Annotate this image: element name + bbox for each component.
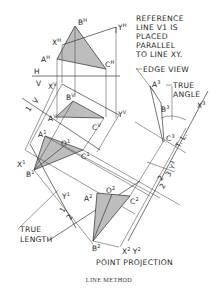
reference-note-line-5: TO LINE XY.	[135, 50, 182, 59]
label-cv: CV	[92, 122, 101, 132]
label-y3: Y3	[166, 159, 179, 172]
label-plane-v-aux: V	[31, 96, 41, 105]
reference-note-line-2: LINE V1 IS	[136, 23, 178, 32]
edge-view-line	[150, 86, 163, 142]
label-c2: C2	[130, 196, 139, 206]
label-xv: XV	[48, 81, 57, 91]
line-method-diagram: BH XH AH CH YH H V XV BV AV CV YV V 1 X1…	[0, 0, 218, 290]
label-x2y2: X2Y2	[122, 246, 141, 256]
figure-caption: LINE METHOD	[86, 276, 133, 283]
edge-view-label: EDGE VIEW	[143, 65, 189, 74]
label-plane-1-aux: 1	[24, 104, 34, 113]
label-plane-2b: 2	[65, 212, 75, 221]
label-yh: YH	[117, 22, 127, 32]
label-a3: A3	[152, 79, 161, 89]
label-ah: AH	[41, 54, 50, 64]
reference-note-line-4: PARALLEL	[136, 41, 176, 50]
point-projection-label: POINT PROJECTION	[96, 258, 173, 267]
true-length-label-1: TRUE	[19, 225, 41, 234]
label-ch: CH	[105, 59, 114, 69]
label-x3: X3	[197, 100, 206, 110]
label-a2: A2	[84, 193, 93, 203]
reference-note-line-3: PLACED	[136, 32, 168, 41]
triangle-abc-aux2	[93, 193, 130, 241]
label-yv: YV	[117, 109, 127, 119]
label-y1: Y1	[61, 191, 70, 201]
true-length-label-2: LENGTH	[20, 235, 52, 244]
label-plane-v: V	[36, 79, 41, 88]
label-b2: B2	[92, 243, 101, 253]
label-av: AV	[48, 113, 57, 123]
auxiliary-view-2	[93, 91, 208, 247]
true-angle-label-2: ANGLE	[173, 90, 200, 99]
label-x1: X1	[17, 159, 26, 169]
true-length-leader	[18, 190, 58, 229]
label-xh: XH	[52, 37, 61, 47]
label-plane-3a: 3	[164, 169, 174, 178]
label-b1: B1	[26, 169, 35, 179]
label-bh: BH	[78, 17, 87, 27]
label-bv: BV	[66, 92, 75, 102]
triangle-abc-frontal	[56, 101, 104, 118]
reference-note-line-1: REFERENCE	[136, 14, 184, 23]
label-c3: C3	[166, 133, 175, 143]
label-o2: O2	[106, 185, 115, 195]
true-angle-arc	[161, 116, 186, 120]
label-b3: B3	[161, 104, 170, 114]
label-plane-h: H	[34, 67, 40, 76]
true-angle-label-1: TRUE	[172, 81, 194, 90]
